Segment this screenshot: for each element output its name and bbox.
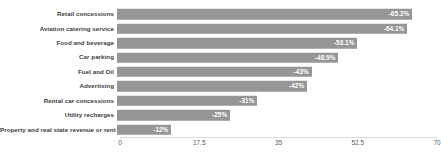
bar[interactable]: -48.9% (117, 52, 338, 63)
bar[interactable]: -31% (117, 96, 257, 107)
category-label: Retail concessions (0, 11, 117, 17)
bar-chart: Retail concessions-65.2%Aviation caterin… (0, 0, 441, 161)
bar-value-label: -43% (294, 69, 312, 75)
category-label: Food and beverage (0, 40, 117, 46)
category-label: Fuel and Oil (0, 69, 117, 75)
chart-row: Aviation catering service-64.1% (0, 21, 441, 35)
bar-track: -48.9% (117, 50, 441, 64)
bar-track: -31% (117, 94, 441, 108)
category-label: Property and real state revenue or rent (0, 127, 117, 133)
chart-row: Rental car concessions-31% (0, 94, 441, 108)
bar-track: -43% (117, 65, 441, 79)
bar-value-label: -12% (153, 127, 171, 133)
bar[interactable]: -53.1% (117, 38, 357, 49)
axis-tick-label: 70 (433, 140, 440, 146)
bar-value-label: -31% (239, 98, 257, 104)
bar-track: -53.1% (117, 36, 441, 50)
bar-value-label: -64.1% (384, 25, 408, 31)
bar-track: -12% (117, 123, 441, 137)
bar[interactable]: -25% (117, 110, 230, 121)
chart-row: Fuel and Oil-43% (0, 65, 441, 79)
bar-track: -42% (117, 79, 441, 93)
axis-tick-label: 0 (118, 140, 122, 146)
bar[interactable]: -42% (117, 81, 307, 92)
axis-tick-label: 35 (275, 140, 282, 146)
chart-row: Food and beverage-53.1% (0, 36, 441, 50)
bar-value-label: -53.1% (334, 40, 358, 46)
bar[interactable]: -65.2% (117, 9, 412, 20)
bar-value-label: -65.2% (389, 11, 413, 17)
bar-track: -25% (117, 108, 441, 122)
chart-row: Property and real state revenue or rent-… (0, 123, 441, 137)
axis-tick-label: 17.5 (193, 140, 205, 146)
chart-row: Advertising-42% (0, 79, 441, 93)
chart-rows: Retail concessions-65.2%Aviation caterin… (0, 7, 441, 137)
bar-value-label: -48.9% (315, 54, 339, 60)
bar[interactable]: -12% (117, 124, 171, 135)
category-label: Advertising (0, 83, 117, 89)
chart-row: Car parking-48.9% (0, 50, 441, 64)
category-label: Car parking (0, 54, 117, 60)
chart-row: Utility recharges-25% (0, 108, 441, 122)
x-axis-ticks: 017.53552.570 (0, 140, 441, 154)
axis-tick-label: 52.5 (352, 140, 364, 146)
bar-track: -64.1% (117, 21, 441, 35)
bar[interactable]: -43% (117, 67, 312, 78)
bar-value-label: -42% (289, 83, 307, 89)
bar[interactable]: -64.1% (117, 23, 407, 34)
chart-row: Retail concessions-65.2% (0, 7, 441, 21)
bar-track: -65.2% (117, 7, 441, 21)
category-label: Utility recharges (0, 112, 117, 118)
bar-value-label: -25% (212, 112, 230, 118)
category-label: Aviation catering service (0, 26, 117, 32)
category-label: Rental car concessions (0, 98, 117, 104)
x-axis-line (120, 137, 437, 138)
